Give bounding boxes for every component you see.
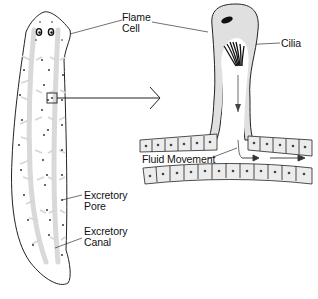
fluid-movement-label: Fluid Movement [142,154,215,165]
excretory-pore-label: Excretory Pore [84,190,127,212]
flame-cell-label: Flame Cell [122,12,151,34]
magnify-arrow [57,87,160,109]
excretory-canal-label-line2: Canal [84,237,127,248]
fluid-flow-arrows [242,155,305,161]
excretory-pore-label-line2: Pore [84,201,127,212]
flame-cell-label-line2: Cell [122,23,151,34]
flame-cell-leader-right [152,22,208,32]
excretory-canal-label: Excretory Canal [84,226,127,248]
flame-cell-leader-left [70,20,122,34]
tubule-wall-lower [143,163,312,184]
cilia-label: Cilia [281,38,301,49]
planarian-body [12,12,71,285]
diagram-canvas [0,0,318,299]
